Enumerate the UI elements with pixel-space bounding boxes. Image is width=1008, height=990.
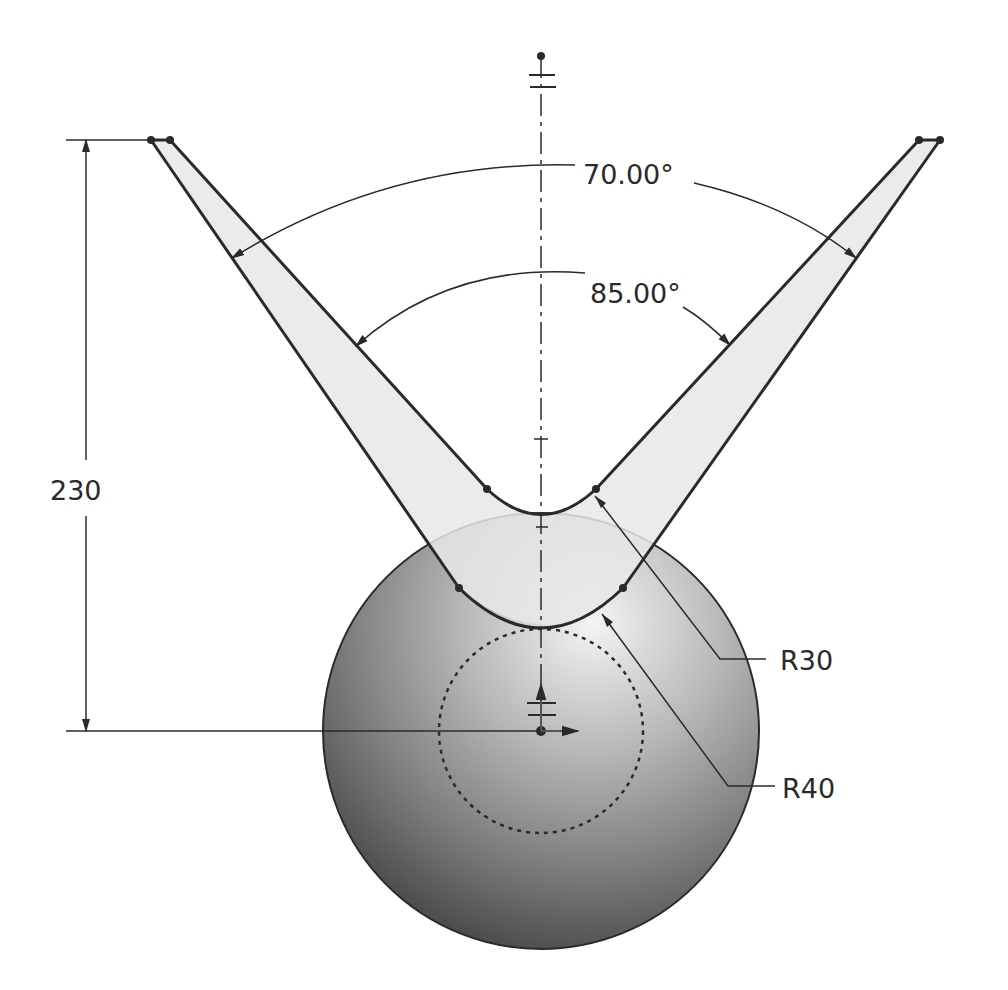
dim-arc-85-left[interactable] bbox=[356, 272, 585, 346]
dim-70-label[interactable]: 70.00° bbox=[583, 159, 674, 190]
cad-sketch-canvas: 230 70.00° 85.00° R30 R40 bbox=[0, 0, 1008, 990]
dim-85-label[interactable]: 85.00° bbox=[590, 278, 681, 309]
dim-r40-label[interactable]: R40 bbox=[782, 773, 835, 804]
left-arm-inner-edge[interactable] bbox=[170, 140, 487, 489]
dim-arc-70-left[interactable] bbox=[232, 165, 575, 258]
centerline-endpoint bbox=[537, 52, 545, 60]
dim-arc-85-right[interactable] bbox=[683, 307, 730, 345]
equal-constraint-top-icon bbox=[529, 75, 556, 87]
dim-r30-label[interactable]: R30 bbox=[780, 645, 833, 676]
left-arm-outer-edge[interactable] bbox=[151, 140, 459, 588]
left-arm[interactable] bbox=[151, 140, 940, 624]
right-arm-inner-edge[interactable] bbox=[596, 140, 919, 489]
right-arm-outer-edge[interactable] bbox=[623, 140, 940, 588]
dim-230-label[interactable]: 230 bbox=[50, 475, 102, 506]
